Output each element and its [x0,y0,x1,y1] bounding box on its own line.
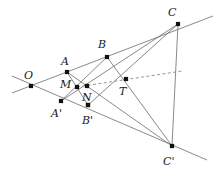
point-marker-X [85,84,89,88]
point-label-N: N [81,91,92,104]
point-label-C: C [168,6,177,19]
point-marker-A [65,70,69,74]
line-O-through-A-B-C [12,16,213,93]
segment-B-Cp [107,57,172,146]
labels-layer: OAMA'BNB'TCC' [24,6,177,168]
point-label-B2: B' [81,114,93,127]
segment-A-Cp [67,72,172,146]
geometry-canvas: OAMA'BNB'TCC' [0,0,219,171]
geometry-figure: OAMA'BNB'TCC' [0,0,219,171]
point-marker-T [124,77,128,81]
point-marker-C2 [170,144,174,148]
segment-C-Cp [172,24,178,146]
lines-layer [12,16,213,160]
point-marker-A2 [59,99,63,103]
point-marker-C [176,22,180,26]
point-label-A2: A' [50,107,62,120]
point-marker-O [29,84,33,88]
axis-dashed-through-T [77,71,182,87]
line-O-through-Ap-Bp-Cp [12,76,207,160]
point-label-O: O [24,69,33,82]
point-label-M: M [59,78,72,91]
point-marker-B [105,55,109,59]
point-label-C2: C' [163,155,174,168]
point-label-A: A [60,55,69,68]
point-label-T: T [119,85,128,98]
point-label-B: B [97,38,106,51]
point-marker-M [75,85,79,89]
